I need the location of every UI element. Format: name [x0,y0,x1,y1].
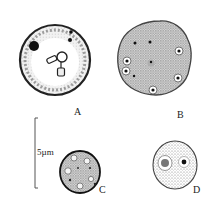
scale-bar-label: 5µm [37,148,54,157]
figure: A B C D 5µm [0,0,212,205]
cell-b [118,21,191,95]
panel-label-d: D [193,185,200,195]
panel-label-a: A [74,107,81,117]
cell-a [20,25,90,95]
panel-label-b: B [177,110,184,120]
cell-c [60,151,100,193]
cell-illustration [0,0,212,205]
cell-d [153,141,197,189]
panel-label-c: C [99,185,106,195]
